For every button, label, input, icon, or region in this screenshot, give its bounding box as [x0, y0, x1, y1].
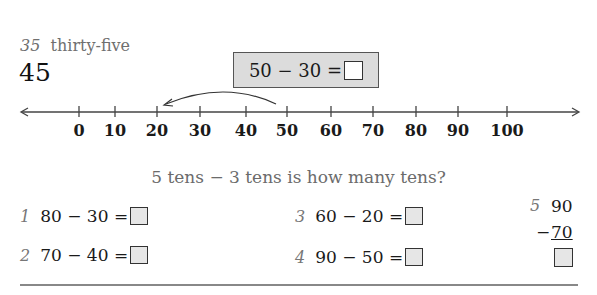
- problem-1: 1 80 − 30 =: [20, 206, 148, 226]
- problem-4: 4 90 − 50 =: [295, 247, 423, 267]
- tick-label: 70: [362, 121, 384, 140]
- problem-expression: 60 − 20 =: [315, 206, 403, 226]
- problem-expression: 70 − 40 =: [40, 245, 128, 265]
- jump-arrow-icon: [164, 92, 276, 106]
- answer-box[interactable]: [130, 207, 148, 225]
- problem-index: 1: [20, 207, 30, 226]
- vertical-problem-top: 90: [551, 196, 573, 216]
- tick-label: 20: [146, 121, 168, 140]
- tick-label: 30: [189, 121, 211, 140]
- tick-label: 50: [276, 121, 298, 140]
- problem-index: 2: [20, 246, 30, 265]
- tick-label: 40: [235, 121, 257, 140]
- tick-label: 80: [405, 121, 427, 140]
- answer-box[interactable]: [405, 207, 423, 225]
- problem-index: 3: [295, 207, 305, 226]
- problem-3: 3 60 − 20 =: [295, 206, 423, 226]
- tick-label: 100: [490, 121, 523, 140]
- problem-expression: 90 − 50 =: [315, 247, 403, 267]
- tick-label: 10: [104, 121, 126, 140]
- vertical-answer-box[interactable]: [554, 248, 573, 267]
- question-text: 5 tens − 3 tens is how many tens?: [0, 167, 597, 187]
- problem-2: 2 70 − 40 =: [20, 245, 148, 265]
- answer-box[interactable]: [405, 248, 423, 266]
- tick-label: 90: [447, 121, 469, 140]
- tick-label: 0: [73, 121, 84, 140]
- problem-expression: 80 − 30 =: [40, 206, 128, 226]
- number-line-axis: [21, 108, 579, 116]
- problem-index: 4: [295, 248, 305, 267]
- tick-label: 60: [320, 121, 342, 140]
- answer-box[interactable]: [130, 246, 148, 264]
- vertical-problem-index: 5: [530, 196, 540, 215]
- bottom-divider: [20, 284, 578, 286]
- vertical-problem-operator: −: [536, 222, 550, 242]
- vertical-problem-bottom: 70: [551, 222, 573, 242]
